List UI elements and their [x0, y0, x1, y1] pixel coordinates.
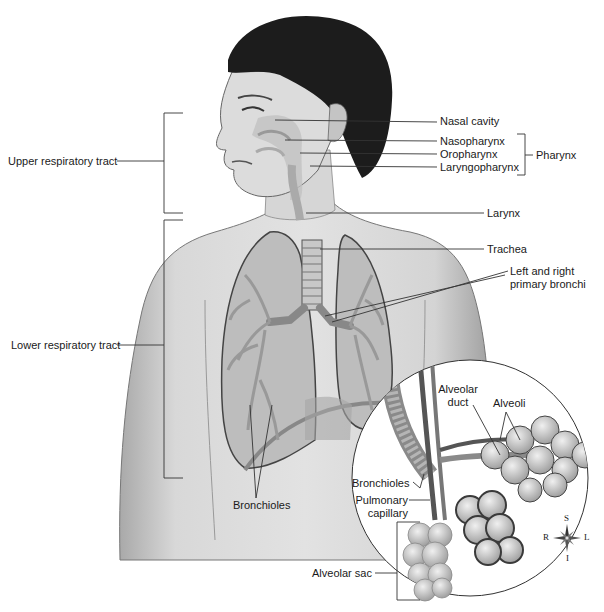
- label-primary-bronchi: Left and right primary bronchi: [510, 265, 586, 291]
- label-alveolar-sac: Alveolar sac: [312, 567, 372, 580]
- label-trachea: Trachea: [487, 243, 527, 256]
- label-oropharynx: Oropharynx: [440, 148, 497, 161]
- label-pulmonary-capillary-line2: capillary: [354, 507, 408, 520]
- label-nasal-cavity: Nasal cavity: [440, 115, 499, 128]
- label-alveolar-duct-line1: Alveolar: [434, 383, 482, 396]
- label-primary-bronchi-line1: Left and right: [510, 265, 586, 278]
- label-pulmonary-capillary: Pulmonary capillary: [354, 494, 408, 520]
- label-pharynx: Pharynx: [536, 149, 576, 162]
- label-primary-bronchi-line2: primary bronchi: [510, 278, 586, 291]
- label-upper-respiratory-tract: Upper respiratory tract: [8, 155, 117, 168]
- compass-right: R: [543, 532, 549, 542]
- compass-inferior: I: [566, 553, 569, 563]
- label-bronchioles: Bronchioles: [233, 499, 290, 512]
- label-laryngopharynx: Laryngopharynx: [440, 161, 519, 174]
- label-alveolar-duct-line2: duct: [434, 396, 482, 409]
- label-pulmonary-capillary-line1: Pulmonary: [354, 494, 408, 507]
- label-alveolar-duct: Alveolar duct: [434, 383, 482, 409]
- label-nasopharynx: Nasopharynx: [440, 135, 505, 148]
- compass-superior: S: [564, 513, 569, 523]
- compass-left: L: [584, 532, 590, 542]
- label-alveoli: Alveoli: [493, 397, 525, 410]
- label-lower-respiratory-tract: Lower respiratory tract: [11, 339, 120, 352]
- respiratory-diagram: Upper respiratory tract Lower respirator…: [0, 0, 604, 612]
- head: [217, 16, 393, 220]
- label-bronchioles-inset: Bronchioles: [352, 477, 409, 490]
- label-larynx: Larynx: [487, 207, 520, 220]
